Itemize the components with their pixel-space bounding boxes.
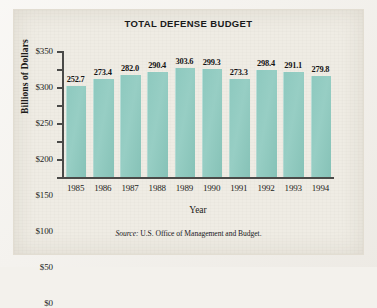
bar-series: 252.71985273.41986282.01987290.41988303.… (62, 51, 334, 177)
y-axis-title: Billions of Dollars (20, 39, 30, 114)
plot-area: $0$50$100$150$200$250$300$350 252.719852… (62, 51, 334, 177)
y-axis-tick: $0 (57, 177, 62, 179)
chart-title: TOTAL DEFENSE BUDGET (0, 18, 377, 29)
bar (311, 76, 332, 177)
source-label: Source: (115, 229, 138, 238)
bar-value-label: 303.6 (175, 57, 193, 66)
y-axis-tick-label: $50 (40, 262, 53, 272)
bar (202, 69, 223, 177)
bar (229, 79, 250, 177)
bar (283, 72, 304, 177)
y-axis-tick-label: $0 (44, 298, 53, 308)
bar-value-label: 279.8 (311, 65, 329, 74)
bar-value-label: 299.3 (203, 58, 221, 67)
bar (120, 75, 141, 177)
bar-group: 282.01987 (116, 51, 143, 177)
bar-value-label: 298.4 (257, 59, 275, 68)
bar-value-label: 290.4 (148, 61, 166, 70)
x-axis-tick-label: 1989 (176, 183, 193, 193)
bar-value-label: 252.7 (67, 75, 85, 84)
bar-group: 273.31991 (225, 51, 252, 177)
x-axis-tick-label: 1993 (285, 183, 302, 193)
bar (256, 70, 277, 177)
bar (175, 68, 196, 177)
bar (147, 72, 168, 177)
x-axis-tick-label: 1991 (230, 183, 247, 193)
bar-group: 252.71985 (62, 51, 89, 177)
bar-group: 290.41988 (144, 51, 171, 177)
x-axis-tick-label: 1988 (149, 183, 166, 193)
bar-value-label: 282.0 (121, 64, 139, 73)
y-axis-tick-label: $200 (35, 154, 53, 164)
x-axis-title: Year (62, 205, 334, 215)
x-axis-tick-label: 1987 (121, 183, 138, 193)
bar-group: 299.31990 (198, 51, 225, 177)
y-axis-tick-label: $300 (35, 82, 53, 92)
source-text: U.S. Office of Management and Budget. (140, 229, 261, 238)
bar (66, 86, 87, 177)
bar-group: 298.41992 (252, 51, 279, 177)
x-axis-tick-label: 1994 (312, 183, 329, 193)
x-axis-tick-label: 1992 (257, 183, 274, 193)
bar-group: 303.61989 (171, 51, 198, 177)
y-axis-tick-label: $150 (35, 190, 53, 200)
y-axis-tick-label: $250 (35, 118, 53, 128)
bar-value-label: 291.1 (284, 61, 302, 70)
bar (93, 79, 114, 177)
bar-group: 291.11993 (280, 51, 307, 177)
bar-group: 273.41986 (89, 51, 116, 177)
y-axis-tick-label: $350 (35, 46, 53, 56)
bar-group: 279.81994 (307, 51, 334, 177)
source-note: Source: U.S. Office of Management and Bu… (0, 229, 377, 238)
x-axis-tick-label: 1985 (67, 183, 84, 193)
bar-value-label: 273.3 (230, 68, 248, 77)
bar-value-label: 273.4 (94, 68, 112, 77)
x-axis-line (62, 177, 334, 179)
x-axis-tick-label: 1986 (94, 183, 111, 193)
x-axis-tick-label: 1990 (203, 183, 220, 193)
